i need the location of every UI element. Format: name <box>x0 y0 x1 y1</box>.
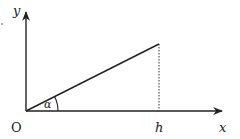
diagram-canvas: y O α h x <box>0 0 240 139</box>
foot-h-label: h <box>155 120 163 135</box>
x-axis-label: x <box>219 120 227 135</box>
angle-arc <box>55 97 58 111</box>
angle-label: α <box>44 98 52 111</box>
y-axis-label: y <box>12 3 21 18</box>
origin-label: O <box>11 120 22 135</box>
